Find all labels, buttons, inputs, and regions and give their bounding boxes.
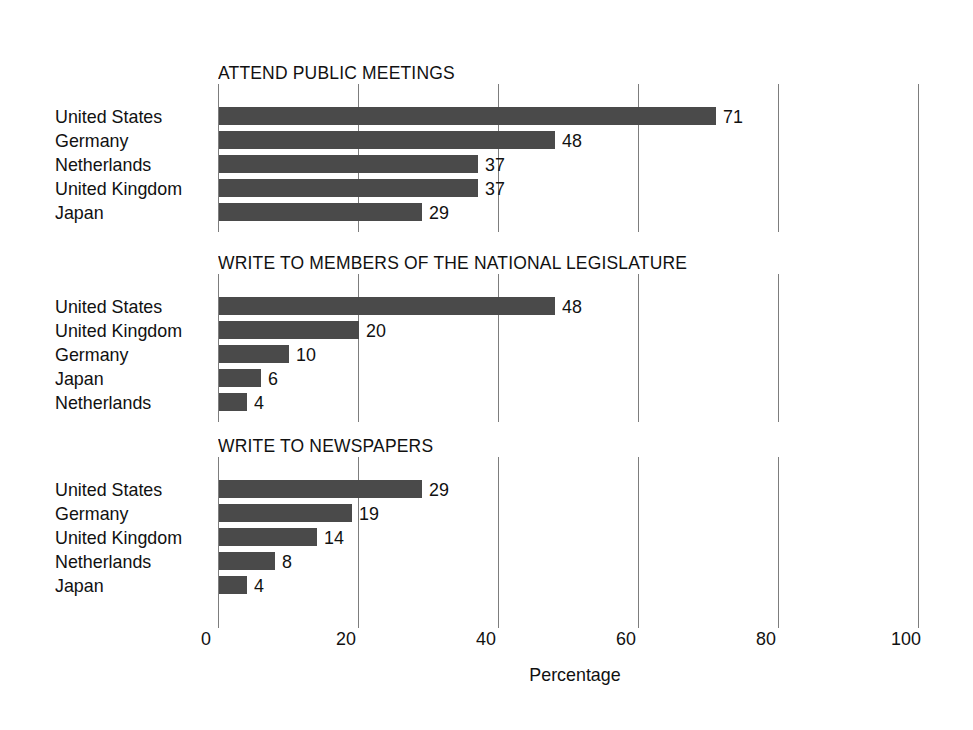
bar-value-label: 20 bbox=[366, 321, 386, 340]
bar bbox=[219, 528, 317, 546]
category-label: Japan bbox=[55, 576, 104, 595]
bar bbox=[219, 179, 478, 197]
bar-value-label: 10 bbox=[296, 345, 316, 364]
x-tick-label-60: 60 bbox=[616, 629, 636, 648]
gridline-80-seg0 bbox=[778, 84, 779, 232]
category-label: Netherlands bbox=[55, 552, 151, 571]
bar-value-label: 29 bbox=[429, 203, 449, 222]
bar-value-label: 14 bbox=[324, 528, 344, 547]
category-label: Japan bbox=[55, 203, 104, 222]
bar bbox=[219, 131, 555, 149]
gridline-80-seg1 bbox=[778, 274, 779, 422]
bar bbox=[219, 155, 478, 173]
category-label: United Kingdom bbox=[55, 321, 182, 340]
bar-value-label: 48 bbox=[562, 131, 582, 150]
bar bbox=[219, 297, 555, 315]
bar bbox=[219, 393, 247, 411]
bar bbox=[219, 504, 352, 522]
gridline-100 bbox=[918, 84, 919, 628]
category-label: Germany bbox=[55, 345, 128, 364]
category-label: United States bbox=[55, 297, 162, 316]
bar-value-label: 29 bbox=[429, 480, 449, 499]
bar-chart-figure: ATTEND PUBLIC MEETINGSUnited States71Ger… bbox=[0, 0, 973, 730]
gridline-60-seg2 bbox=[638, 457, 639, 628]
bar bbox=[219, 369, 261, 387]
x-tick-label-0: 0 bbox=[201, 629, 211, 648]
panel-title: ATTEND PUBLIC MEETINGS bbox=[218, 62, 455, 84]
bar bbox=[219, 203, 422, 221]
category-label: Japan bbox=[55, 369, 104, 388]
gridline-80-seg2 bbox=[778, 457, 779, 628]
category-label: United States bbox=[55, 107, 162, 126]
bar-value-label: 19 bbox=[359, 504, 379, 523]
bar bbox=[219, 107, 716, 125]
bar-value-label: 37 bbox=[485, 179, 505, 198]
bar bbox=[219, 552, 275, 570]
bar-value-label: 6 bbox=[268, 369, 278, 388]
x-tick-label-40: 40 bbox=[476, 629, 496, 648]
category-label: Germany bbox=[55, 131, 128, 150]
category-label: United Kingdom bbox=[55, 528, 182, 547]
bar-value-label: 4 bbox=[254, 576, 264, 595]
bar bbox=[219, 345, 289, 363]
gridline-40-seg2 bbox=[498, 457, 499, 628]
bar-value-label: 37 bbox=[485, 155, 505, 174]
panel-title: WRITE TO NEWSPAPERS bbox=[218, 435, 433, 457]
x-tick-label-80: 80 bbox=[756, 629, 776, 648]
category-label: Germany bbox=[55, 504, 128, 523]
category-label: Netherlands bbox=[55, 393, 151, 412]
bar-value-label: 48 bbox=[562, 297, 582, 316]
bar-value-label: 8 bbox=[282, 552, 292, 571]
x-axis-title: Percentage bbox=[529, 665, 620, 684]
bar-value-label: 4 bbox=[254, 393, 264, 412]
bar bbox=[219, 321, 359, 339]
x-tick-label-20: 20 bbox=[336, 629, 356, 648]
gridline-60-seg1 bbox=[638, 274, 639, 422]
bar-value-label: 71 bbox=[723, 107, 743, 126]
panel-title: WRITE TO MEMBERS OF THE NATIONAL LEGISLA… bbox=[218, 252, 687, 274]
category-label: United States bbox=[55, 480, 162, 499]
bar bbox=[219, 576, 247, 594]
x-tick-label-100: 100 bbox=[891, 629, 921, 648]
category-label: Netherlands bbox=[55, 155, 151, 174]
category-label: United Kingdom bbox=[55, 179, 182, 198]
bar bbox=[219, 480, 422, 498]
